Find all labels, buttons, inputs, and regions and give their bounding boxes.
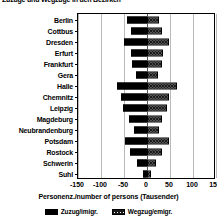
bar-cottbus-zuzug bbox=[131, 27, 147, 34]
y-axis-tick bbox=[75, 31, 78, 32]
bar-potsdam-wegzug bbox=[147, 138, 169, 145]
chart-container: Zuzüge und Wegzüge in den Bezirken Berli… bbox=[0, 0, 217, 220]
chart-row: Magdeburg bbox=[78, 114, 214, 125]
x-axis-tick-labels: -150-100-50050100150 bbox=[77, 181, 215, 191]
bar-halle-wegzug bbox=[147, 82, 177, 89]
category-label-schwerin: Schwerin bbox=[43, 160, 73, 167]
legend-swatch-solid bbox=[45, 209, 58, 215]
x-tick-label-150: 150 bbox=[209, 181, 217, 188]
bar-suhl-wegzug bbox=[147, 171, 151, 178]
x-tick-label-0: 0 bbox=[144, 181, 148, 188]
bar-rostock-wegzug bbox=[147, 149, 162, 156]
y-axis-tick bbox=[75, 42, 78, 43]
bar-gera-wegzug bbox=[147, 71, 158, 78]
bar-neubrandenburg-zuzug bbox=[134, 127, 147, 134]
y-axis-tick bbox=[75, 152, 78, 153]
bar-schwerin-wegzug bbox=[147, 160, 156, 167]
chart-row: Cottbus bbox=[78, 25, 214, 36]
bar-frankfurt-zuzug bbox=[132, 60, 147, 67]
category-label-berlin: Berlin bbox=[54, 16, 73, 23]
y-axis-tick bbox=[75, 174, 78, 175]
legend-item: Zuzug/imigr. bbox=[45, 208, 98, 215]
category-label-cottbus: Cottbus bbox=[48, 27, 73, 34]
legend-item: Wegzug/emigr. bbox=[112, 208, 172, 215]
y-axis-tick bbox=[75, 97, 78, 98]
chart-row: Suhl bbox=[78, 169, 214, 180]
y-axis-tick bbox=[75, 141, 78, 142]
bar-rostock-zuzug bbox=[130, 149, 147, 156]
bar-potsdam-zuzug bbox=[125, 138, 147, 145]
bar-neubrandenburg-wegzug bbox=[147, 127, 159, 134]
chart-row: Dresden bbox=[78, 36, 214, 47]
x-tick-label--100: -100 bbox=[93, 181, 107, 188]
x-tick-label-50: 50 bbox=[165, 181, 173, 188]
x-axis-title: Personenz./number of persons (Tausender) bbox=[0, 193, 217, 200]
bar-leipzig-zuzug bbox=[123, 105, 147, 112]
bar-berlin-zuzug bbox=[127, 16, 147, 23]
category-label-frankfurt: Frankfurt bbox=[44, 60, 73, 67]
y-axis-tick bbox=[75, 130, 78, 131]
plot-area: BerlinCottbusDresdenErfurtFrankfurtGeraH… bbox=[77, 13, 215, 179]
category-label-dresden: Dresden bbox=[46, 38, 73, 45]
category-label-magdeburg: Magdeburg bbox=[37, 116, 73, 123]
chart-row: Frankfurt bbox=[78, 58, 214, 69]
category-label-rostock: Rostock bbox=[46, 149, 73, 156]
x-tick-label-100: 100 bbox=[186, 181, 198, 188]
chart-row: Gera bbox=[78, 69, 214, 80]
category-label-leipzig: Leipzig bbox=[50, 105, 73, 112]
bar-erfurt-wegzug bbox=[147, 49, 163, 56]
legend-label: Zuzug/imigr. bbox=[61, 208, 98, 215]
category-label-potsdam: Potsdam bbox=[44, 138, 73, 145]
chart-row: Potsdam bbox=[78, 136, 214, 147]
y-axis-tick bbox=[75, 64, 78, 65]
chart-row: Berlin bbox=[78, 14, 214, 25]
bar-magdeburg-zuzug bbox=[129, 116, 147, 123]
chart-row: Schwerin bbox=[78, 158, 214, 169]
bar-magdeburg-wegzug bbox=[147, 116, 162, 123]
bar-dresden-zuzug bbox=[124, 38, 147, 45]
y-axis-tick bbox=[75, 108, 78, 109]
x-tick-label--150: -150 bbox=[70, 181, 84, 188]
chart-title: Zuzüge und Wegzüge in den Bezirken bbox=[2, 0, 121, 4]
bar-frankfurt-wegzug bbox=[147, 60, 162, 67]
bar-schwerin-zuzug bbox=[137, 160, 147, 167]
bar-dresden-wegzug bbox=[147, 38, 169, 45]
y-axis-tick bbox=[75, 20, 78, 21]
y-axis-tick bbox=[75, 53, 78, 54]
bar-gera-zuzug bbox=[136, 71, 147, 78]
y-axis-tick bbox=[75, 75, 78, 76]
bar-chemnitz-zuzug bbox=[121, 93, 147, 100]
category-label-erfurt: Erfurt bbox=[55, 49, 73, 56]
chart-row: Neubrandenburg bbox=[78, 125, 214, 136]
chart-row: Erfurt bbox=[78, 47, 214, 58]
y-axis-tick bbox=[75, 163, 78, 164]
bar-leipzig-wegzug bbox=[147, 105, 167, 112]
chart-row: Chemnitz bbox=[78, 91, 214, 102]
y-axis-tick bbox=[75, 119, 78, 120]
category-label-neubrandenburg: Neubrandenburg bbox=[19, 127, 73, 134]
bar-berlin-wegzug bbox=[147, 16, 159, 23]
category-label-chemnitz: Chemnitz bbox=[43, 93, 73, 100]
category-label-gera: Gera bbox=[58, 71, 73, 78]
bar-erfurt-zuzug bbox=[131, 49, 147, 56]
legend-label: Wegzug/emigr. bbox=[128, 208, 172, 215]
y-axis-tick bbox=[75, 86, 78, 87]
bar-cottbus-wegzug bbox=[147, 27, 162, 34]
chart-row: Leipzig bbox=[78, 103, 214, 114]
category-label-halle: Halle bbox=[57, 82, 73, 89]
chart-row: Rostock bbox=[78, 147, 214, 158]
x-tick-label--50: -50 bbox=[118, 181, 128, 188]
gridline bbox=[216, 14, 217, 178]
legend-swatch-hatch bbox=[112, 209, 125, 215]
category-label-suhl: Suhl bbox=[58, 171, 73, 178]
bar-chemnitz-wegzug bbox=[147, 93, 169, 100]
bar-halle-zuzug bbox=[117, 82, 147, 89]
chart-row: Halle bbox=[78, 80, 214, 91]
chart-legend: Zuzug/imigr.Wegzug/emigr. bbox=[0, 208, 217, 215]
